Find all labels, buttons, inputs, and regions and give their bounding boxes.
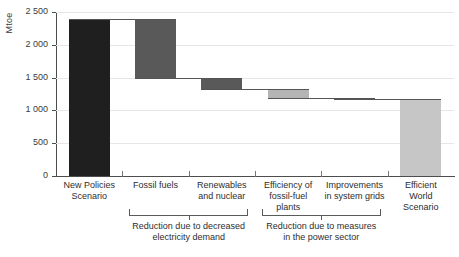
annotation-bracket <box>129 209 248 216</box>
waterfall-connector <box>201 89 308 90</box>
annotation-bracket <box>262 209 381 216</box>
x-category-label: Improvements in system grids <box>321 180 387 202</box>
x-tick-mark <box>122 171 123 177</box>
bar <box>69 19 110 176</box>
gridline <box>56 45 454 46</box>
annotation-label: Reduction due to measures in the power s… <box>246 221 397 243</box>
x-category-label: Renewables and nuclear <box>189 180 255 202</box>
x-category-label: Fossil fuels <box>122 180 188 191</box>
gridline <box>56 143 454 144</box>
bar <box>135 19 176 78</box>
x-tick-mark <box>321 171 322 177</box>
x-category-label: New Policies Scenario <box>56 180 122 202</box>
gridline <box>56 110 454 111</box>
gridline <box>56 78 454 79</box>
x-tick-mark <box>189 171 190 177</box>
bar <box>268 89 309 98</box>
x-category-label: Efficient World Scenario <box>388 180 454 213</box>
bar <box>400 99 441 176</box>
x-tick-mark <box>388 171 389 177</box>
waterfall-connector <box>69 19 176 20</box>
y-tick-mark <box>52 176 56 177</box>
annotation-label: Reduction due to decreased electricity d… <box>113 221 264 243</box>
bar <box>201 78 242 89</box>
y-tick-label: 2 000 <box>0 39 48 49</box>
annotation-bracket-stem <box>189 216 190 220</box>
x-tick-mark <box>255 171 256 177</box>
y-tick-label: 0 <box>0 170 48 180</box>
y-tick-label: 500 <box>0 137 48 147</box>
y-tick-label: 1 500 <box>0 72 48 82</box>
waterfall-connector <box>334 99 441 100</box>
waterfall-connector <box>135 78 242 79</box>
y-tick-label: 1 000 <box>0 104 48 114</box>
gridline <box>56 12 454 13</box>
annotation-bracket-stem <box>321 216 322 220</box>
y-tick-label: 2 500 <box>0 6 48 16</box>
chart-root: Mtoe 05001 0001 5002 0002 500 New Polici… <box>0 0 459 257</box>
plot-area <box>56 12 454 176</box>
